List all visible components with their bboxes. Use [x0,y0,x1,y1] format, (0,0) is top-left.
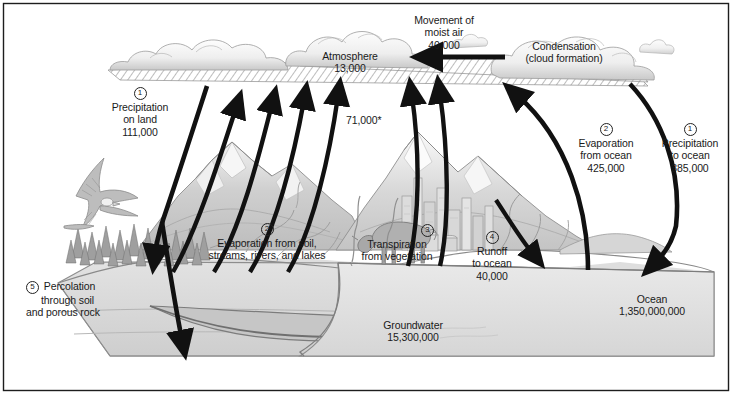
evap-ocean-line2: from ocean [566,149,646,161]
flux-number-2-ocean: 2 [600,123,613,136]
label-condensation: Condensation (cloud formation) [500,40,628,65]
precip-land-value: 111,000 [96,126,184,138]
precip-ocean-line2: to ocean [650,149,730,161]
condensation-line2: (cloud formation) [500,52,628,64]
ocean-value: 1,350,000,000 [590,305,714,317]
label-runoff-to-ocean: 4 Runoff to ocean 40,000 [456,231,528,282]
runoff-line2: to ocean [456,257,528,269]
groundwater-value: 15,300,000 [358,331,468,343]
label-movement-of-moist-air: Movement of moist air 40,000 [396,14,492,51]
transpiration-line2: from vegetation [333,250,461,262]
evap-ocean-value: 425,000 [566,162,646,174]
precip-ocean-value: 385,000 [650,162,730,174]
ocean-name: Ocean [590,293,714,305]
precip-ocean-line1: Precipitation [650,137,730,149]
runoff-value: 40,000 [456,270,528,282]
flux-number-1-ocean: 1 [684,123,697,136]
percolation-line2: through soil [41,294,168,306]
cloud-left [110,40,288,70]
eagle [64,158,138,229]
flux-number-1: 1 [134,87,147,100]
moist-air-value: 40,000 [396,39,492,51]
label-ocean: Ocean 1,350,000,000 [590,293,714,318]
moist-air-line1: Movement of [396,14,492,26]
precip-land-line2: on land [96,113,184,125]
groundwater-name: Groundwater [358,319,468,331]
label-evaporation-from-ocean: 2 Evaporation from ocean 425,000 [566,123,646,174]
label-percolation: 5 Percolation through soil and porous ro… [26,280,168,319]
label-transpiration: 3 Transpiration from vegetation [333,224,461,263]
flux-number-5: 5 [26,281,39,294]
precip-land-line1: Precipitation [96,101,184,113]
transpiration-line1: Transpiration [333,238,461,250]
flux-number-3: 3 [421,224,434,237]
label-atmosphere: Atmosphere 13,000 [310,50,390,75]
atmosphere-name: Atmosphere [310,50,390,62]
runoff-line1: Runoff [456,245,528,257]
flux-number-4: 4 [486,231,499,244]
moist-air-line2: moist air [396,26,492,38]
label-land-flux-total: 71,000* [346,114,406,126]
atmosphere-value: 13,000 [310,62,390,74]
water-cycle-diagram: Atmosphere 13,000 Movement of moist air … [0,0,732,394]
condensation-line1: Condensation [500,40,628,52]
flux-number-2-land: 2 [261,223,274,236]
percolation-line3: and porous rock [26,306,168,318]
label-precipitation-on-land: 1 Precipitation on land 111,000 [96,87,184,138]
evap-ocean-line1: Evaporation [566,137,646,149]
percolation-line1: Percolation [44,280,95,292]
land-flux-total-value: 71,000* [346,114,406,126]
label-groundwater: Groundwater 15,300,000 [358,319,468,344]
label-precipitation-to-ocean: 1 Precipitation to ocean 385,000 [650,123,730,174]
